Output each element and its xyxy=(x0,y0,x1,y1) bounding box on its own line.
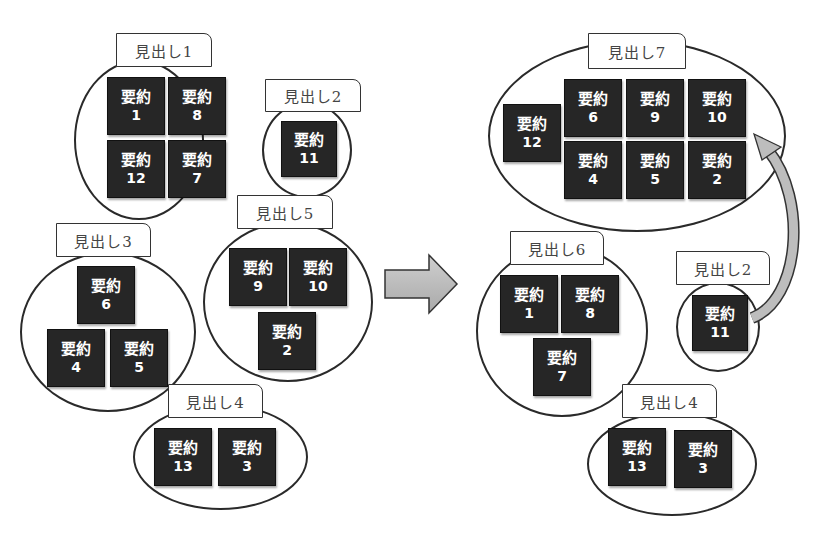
summary-card-5-merged[interactable]: 要約5 xyxy=(626,141,684,199)
summary-card-2[interactable]: 要約2 xyxy=(258,312,316,370)
group-2-heading: 見出し2 xyxy=(265,79,361,112)
summary-card-6[interactable]: 要約6 xyxy=(77,266,135,324)
summary-card-11[interactable]: 要約11 xyxy=(281,121,337,177)
summary-card-8-group6[interactable]: 要約8 xyxy=(561,275,619,333)
summary-card-8[interactable]: 要約8 xyxy=(168,77,226,135)
summary-card-1[interactable]: 要約1 xyxy=(107,77,165,135)
group-1-heading: 見出し1 xyxy=(116,33,212,67)
summary-card-6-merged[interactable]: 要約6 xyxy=(564,79,622,137)
summary-card-12-merged[interactable]: 要約12 xyxy=(503,104,561,162)
group-6-heading: 見出し6 xyxy=(510,231,604,265)
summary-card-11-right[interactable]: 要約11 xyxy=(692,295,748,351)
summary-card-9-merged[interactable]: 要約9 xyxy=(626,79,684,137)
summary-card-3[interactable]: 要約3 xyxy=(218,428,276,486)
summary-card-13[interactable]: 要約13 xyxy=(154,428,212,486)
summary-card-4-merged[interactable]: 要約4 xyxy=(564,141,622,199)
group-7-heading: 見出し7 xyxy=(588,33,686,69)
summary-card-7[interactable]: 要約7 xyxy=(168,140,226,198)
summary-card-5[interactable]: 要約5 xyxy=(110,329,168,387)
group-5-heading: 見出し5 xyxy=(237,195,333,229)
summary-card-3-right[interactable]: 要約3 xyxy=(674,430,732,488)
summary-card-13-right[interactable]: 要約13 xyxy=(608,428,666,486)
summary-card-7-group6[interactable]: 要約7 xyxy=(533,338,591,396)
summary-card-9[interactable]: 要約9 xyxy=(229,248,287,306)
summary-card-1-group6[interactable]: 要約1 xyxy=(500,275,558,333)
summary-card-2-merged[interactable]: 要約2 xyxy=(688,141,746,199)
summary-card-12[interactable]: 要約12 xyxy=(107,140,165,198)
group-3-heading: 見出し3 xyxy=(56,223,151,257)
summary-card-10-merged[interactable]: 要約10 xyxy=(688,79,746,137)
group-4-right-heading: 見出し4 xyxy=(622,384,717,418)
group-2-right-heading: 見出し2 xyxy=(676,251,770,285)
summary-card-10[interactable]: 要約10 xyxy=(289,248,347,306)
group-4-heading: 見出し4 xyxy=(168,384,263,418)
summary-card-4[interactable]: 要約4 xyxy=(47,329,105,387)
